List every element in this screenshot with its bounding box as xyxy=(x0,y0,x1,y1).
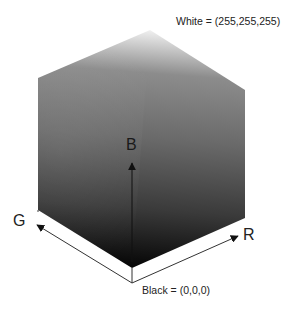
r-axis-label: R xyxy=(243,226,255,244)
b-axis-label: B xyxy=(126,136,137,154)
g-axis-label: G xyxy=(13,212,25,230)
black-label: Black = (0,0,0) xyxy=(142,284,210,296)
rgb-cube-diagram xyxy=(0,0,297,309)
white-label: White = (255,255,255) xyxy=(176,15,280,27)
